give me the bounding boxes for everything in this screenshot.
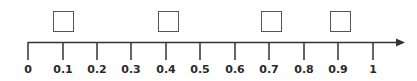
tick-label: 0.4 [156,63,176,77]
answer-box[interactable] [53,11,74,32]
tick-marks [28,42,373,60]
tick-label: 0.1 [53,63,73,77]
tick-label: 0 [24,63,32,77]
tick-label: 0.9 [328,63,348,77]
tick-label: 0.6 [225,63,245,77]
arrow-head-icon [396,39,405,47]
tick-label: 0.7 [259,63,279,77]
answer-box[interactable] [330,11,351,32]
tick-label: 0.3 [121,63,141,77]
tick-label: 0.5 [190,63,210,77]
tick-label: 1 [369,63,377,77]
answer-box[interactable] [158,11,179,32]
tick-label: 0.2 [87,63,107,77]
tick-label: 0.8 [294,63,314,77]
answer-box[interactable] [261,11,282,32]
